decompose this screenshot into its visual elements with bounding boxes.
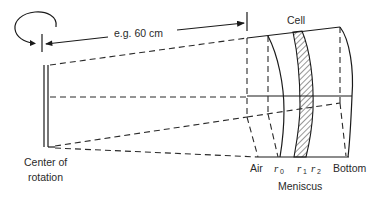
bottom-label: Bottom: [333, 162, 367, 174]
center-of-rotation-label-2: rotation: [28, 171, 63, 183]
sector-lines: [50, 38, 258, 157]
meniscus-label: Meniscus: [278, 180, 322, 192]
center-of-rotation-label-1: Center of: [24, 156, 67, 168]
centrifuge-diagram: e.g. 60 cm Cel: [0, 0, 377, 201]
r1-subscript: 1: [303, 168, 307, 175]
r0-label: r: [274, 162, 279, 174]
rotation-arrow-icon: [15, 12, 56, 46]
r2-subscript: 2: [317, 168, 321, 175]
cell-label: Cell: [287, 14, 305, 26]
cell: [247, 27, 353, 157]
rotation-axis: [44, 65, 55, 147]
r0-subscript: 0: [280, 168, 284, 175]
r1-label: r: [297, 162, 302, 174]
r2-label: r: [311, 162, 316, 174]
air-label: Air: [250, 162, 263, 174]
distance-label: e.g. 60 cm: [114, 27, 163, 39]
